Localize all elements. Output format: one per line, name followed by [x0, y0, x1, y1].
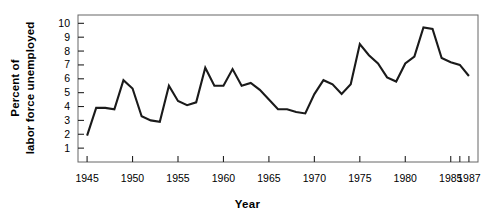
- unemployment-data-line: [87, 27, 469, 135]
- y-axis-ticks: [78, 23, 84, 148]
- plot-frame-rect: [78, 15, 478, 162]
- unemployment-line-chart: Percent of labor force unemployed 123456…: [0, 0, 495, 219]
- plot-area: [0, 0, 495, 219]
- plot-frame: [78, 15, 478, 162]
- x-axis-ticks: [87, 156, 469, 162]
